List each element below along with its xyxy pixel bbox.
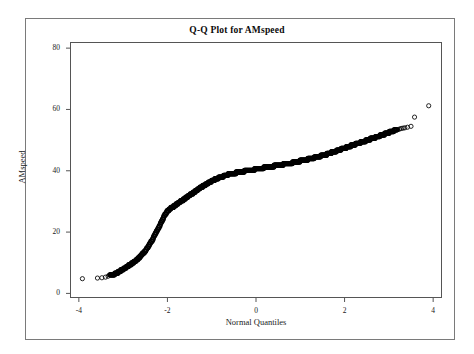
y-tick-label: 20 [36,227,60,236]
x-tick-label: 2 [330,306,360,315]
x-tick-label: 4 [418,306,448,315]
x-tick-label: 0 [241,306,271,315]
y-tick-label: 0 [36,288,60,297]
x-tick-label: -2 [152,306,182,315]
y-tick-label: 60 [36,104,60,113]
qq-plot-figure: Q-Q Plot for AMspeed 020406080 -4-2024 N… [0,0,474,354]
x-tick-label: -4 [64,306,94,315]
y-tick-label: 40 [36,166,60,175]
x-axis-label: Normal Quantiles [70,317,442,327]
y-tick-label: 80 [36,43,60,52]
plot-area-frame [70,42,442,298]
y-axis-label: AMspeed [17,127,27,207]
page-title: Q-Q Plot for AMspeed [0,25,474,35]
